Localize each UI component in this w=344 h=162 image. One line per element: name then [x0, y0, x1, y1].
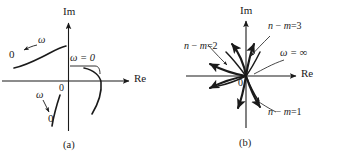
- panel-caption-b: (b): [239, 138, 251, 149]
- zero-label-upper-left-a: 0: [9, 49, 15, 60]
- leader-omega-infinity-b: [254, 60, 284, 74]
- panel-a: Im Re 0 ω 0 ω 0 ω = 0 (a): [0, 0, 172, 162]
- minus-sign-3: −: [273, 20, 284, 31]
- imaginary-axis-label-b: Im: [240, 5, 252, 16]
- m-italic-3: m: [284, 20, 291, 31]
- curve-bundle-4-b: [246, 76, 258, 100]
- minus-sign-2: −: [189, 40, 200, 51]
- minus-sign-1: −: [273, 106, 284, 117]
- value-1: =1: [291, 106, 302, 117]
- omega-label-lower-left-a: ω: [36, 90, 43, 101]
- figure-container: Im Re 0 ω 0 ω 0 ω = 0 (a): [0, 0, 344, 162]
- label-n-minus-m-1: n − m=1: [268, 107, 302, 117]
- label-n-minus-m-3: n − m=3: [268, 21, 302, 31]
- imaginary-axis-label-a: Im: [63, 6, 75, 17]
- omega-label-upper-left-a: ω: [38, 35, 45, 46]
- value-3: =3: [291, 20, 302, 31]
- m-italic-2: m: [200, 40, 207, 51]
- omega-equals-infinity-label-b: ω = ∞: [280, 48, 307, 59]
- leader-upper-left-a: [24, 45, 37, 50]
- curve-upper-left-a: [14, 46, 66, 68]
- real-axis-label-a: Re: [134, 73, 146, 84]
- leader-lower-left-a: [43, 100, 49, 112]
- omega-equals-zero-label-a: ω = 0: [70, 53, 95, 64]
- label-n-minus-m-2: n − m=2: [184, 41, 218, 51]
- zero-label-lower-left-a: 0: [48, 113, 54, 124]
- panel-b-drawing: [172, 0, 344, 162]
- origin-label-b: 0: [238, 78, 243, 88]
- curve-right-a: [84, 68, 101, 114]
- panel-b: Im Re 0 n − m=3 n − m=2 n − m=1 ω = ∞ (b…: [172, 0, 344, 162]
- origin-label-a: 0: [59, 83, 64, 93]
- panel-caption-a: (a): [63, 140, 75, 151]
- real-axis-label-b: Re: [301, 68, 313, 79]
- value-2: =2: [207, 40, 218, 51]
- m-italic-1: m: [284, 106, 291, 117]
